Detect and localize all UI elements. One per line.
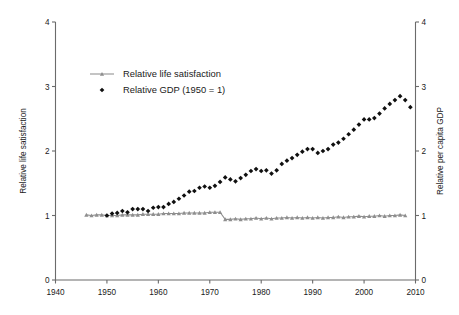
series-gdp-marker — [393, 98, 398, 103]
series-gdp-marker — [357, 122, 362, 127]
series-gdp-marker — [228, 177, 233, 182]
y-ticklabel-left-2: 2 — [45, 147, 50, 156]
series-gdp-marker — [346, 132, 351, 137]
series-gdp-marker — [310, 147, 315, 152]
y-ticklabel-left-0: 0 — [45, 276, 50, 285]
series-gdp-marker — [408, 105, 413, 110]
series-gdp-marker — [377, 111, 382, 116]
series-gdp-marker — [341, 136, 346, 141]
y-axis-title-left: Relative life satisfaction — [19, 108, 28, 194]
series-gdp-marker — [146, 209, 151, 214]
series-gdp-marker — [326, 147, 331, 152]
series-gdp-marker — [249, 169, 254, 174]
series-gdp-marker — [151, 205, 156, 210]
legend-label-gdp: Relative GDP (1950 = 1) — [123, 84, 225, 95]
y-ticklabel-left-4: 4 — [45, 18, 50, 27]
series-gdp-marker — [202, 184, 207, 189]
series-gdp-marker — [182, 193, 187, 198]
series-gdp-marker — [207, 185, 212, 190]
y-ticklabel-right-4: 4 — [422, 18, 427, 27]
series-gdp-marker — [315, 151, 320, 156]
series-gdp-marker — [295, 153, 300, 158]
series-gdp-marker — [233, 179, 238, 184]
series-gdp-marker — [115, 211, 120, 216]
series-gdp-marker — [135, 207, 140, 212]
series-gdp-marker — [285, 158, 290, 163]
series-gdp-marker — [264, 168, 269, 173]
y-axis-title-right: Relative per capita GDP — [436, 107, 445, 195]
series-gdp-marker — [259, 169, 264, 174]
series-gdp-marker — [403, 98, 408, 103]
y-ticklabel-right-2: 2 — [422, 147, 427, 156]
series-gdp-marker — [192, 189, 197, 194]
chart-container: 0123401234194019501960197019801990200020… — [0, 0, 459, 315]
series-gdp-marker — [161, 205, 166, 210]
series-gdp-marker — [120, 209, 125, 214]
x-ticklabel-1: 1950 — [98, 288, 117, 297]
series-gdp-marker — [187, 189, 192, 194]
series-gdp-marker — [177, 196, 182, 201]
series-gdp-marker — [321, 149, 326, 154]
y-ticklabel-right-3: 3 — [422, 83, 427, 92]
series-gdp-marker — [166, 202, 171, 207]
series-gdp-marker — [351, 127, 356, 132]
series-gdp-marker — [279, 162, 284, 167]
y-ticklabel-right-1: 1 — [422, 212, 427, 221]
series-gdp-marker — [336, 140, 341, 145]
legend-marker-gdp — [100, 88, 105, 93]
series-gdp-marker — [254, 167, 259, 172]
x-ticklabel-5: 1990 — [304, 288, 323, 297]
series-gdp-marker — [362, 117, 367, 122]
series-gdp-marker — [300, 149, 305, 154]
series-gdp-marker — [331, 142, 336, 147]
y-ticklabel-left-3: 3 — [45, 83, 50, 92]
series-gdp-marker — [223, 175, 228, 180]
x-ticklabel-3: 1970 — [201, 288, 220, 297]
chart-canvas: 0123401234194019501960197019801990200020… — [0, 0, 459, 315]
x-ticklabel-7: 2010 — [406, 288, 425, 297]
x-ticklabel-2: 1960 — [149, 288, 168, 297]
series-gdp-marker — [290, 156, 295, 161]
series-gdp-marker — [171, 200, 176, 205]
series-gdp-marker — [305, 147, 310, 152]
series-gdp-marker — [269, 171, 274, 176]
series-gdp-marker — [141, 207, 146, 212]
series-gdp-marker — [274, 168, 279, 173]
series-gdp-marker — [382, 106, 387, 111]
series-gdp-marker — [156, 205, 161, 210]
x-ticklabel-4: 1980 — [252, 288, 271, 297]
series-gdp-marker — [398, 94, 403, 99]
series-gdp-marker — [238, 176, 243, 181]
series-gdp-marker — [367, 117, 372, 122]
series-gdp-marker — [125, 210, 130, 215]
x-ticklabel-6: 2000 — [355, 288, 374, 297]
series-gdp-marker — [130, 207, 135, 212]
series-gdp-marker — [197, 185, 202, 190]
y-ticklabel-right-0: 0 — [422, 276, 427, 285]
series-gdp-marker — [218, 180, 223, 185]
x-ticklabel-0: 1940 — [46, 288, 65, 297]
series-gdp-marker — [387, 102, 392, 107]
y-ticklabel-left-1: 1 — [45, 212, 50, 221]
series-gdp-marker — [372, 116, 377, 121]
series-gdp-marker — [213, 183, 218, 188]
series-gdp-marker — [243, 173, 248, 178]
legend-label-life-satisfaction: Relative life satisfaction — [123, 68, 221, 79]
